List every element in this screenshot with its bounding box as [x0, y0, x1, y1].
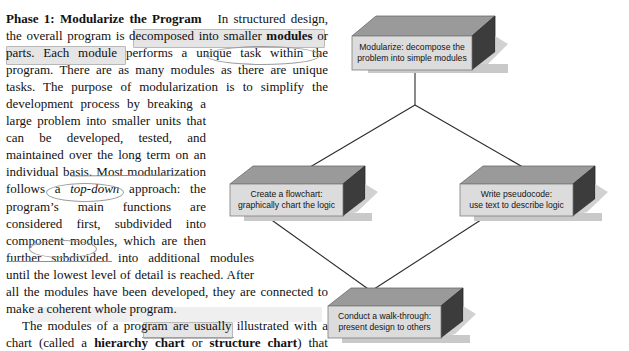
paragraph-modules-chart: The modules of a program are usually ill… [6, 317, 328, 351]
connector-branch-to-pseudocode [415, 105, 528, 170]
connector-pseudocode-to-walkthrough [371, 216, 487, 291]
block-write-pseudocode[interactable]: Write pseudocode: use text to describe l… [458, 164, 610, 224]
circle-a-top-down [46, 183, 124, 202]
block-modularize[interactable]: Modularize: decompose the problem into s… [350, 14, 510, 76]
underline-hierarchy-chart [142, 337, 234, 338]
block-write-pseudocode-label: Write pseudocode: use text to describe l… [460, 184, 573, 216]
block-modularize-label: Modularize: decompose the problem into s… [352, 36, 472, 70]
circle-subdivided [29, 240, 97, 258]
text-wrap-spacer-bottom [254, 238, 328, 278]
paragraph-heading: Phase 1: Modularize the Program [6, 11, 202, 26]
strike-the-lowest-level-of [8, 261, 112, 262]
block-conduct-walkthrough-label: Conduct a walk-through: present design t… [328, 306, 441, 338]
paragraph-2-body: The modules of a program are usually ill… [6, 318, 328, 351]
circle-a-unique-task [206, 46, 320, 65]
block-conduct-walkthrough[interactable]: Conduct a walk-through: present design t… [326, 286, 478, 346]
block-create-flowchart-label: Create a flowchart: graphically chart th… [230, 184, 343, 216]
block-create-flowchart[interactable]: Create a flowchart: graphically chart th… [228, 164, 380, 224]
